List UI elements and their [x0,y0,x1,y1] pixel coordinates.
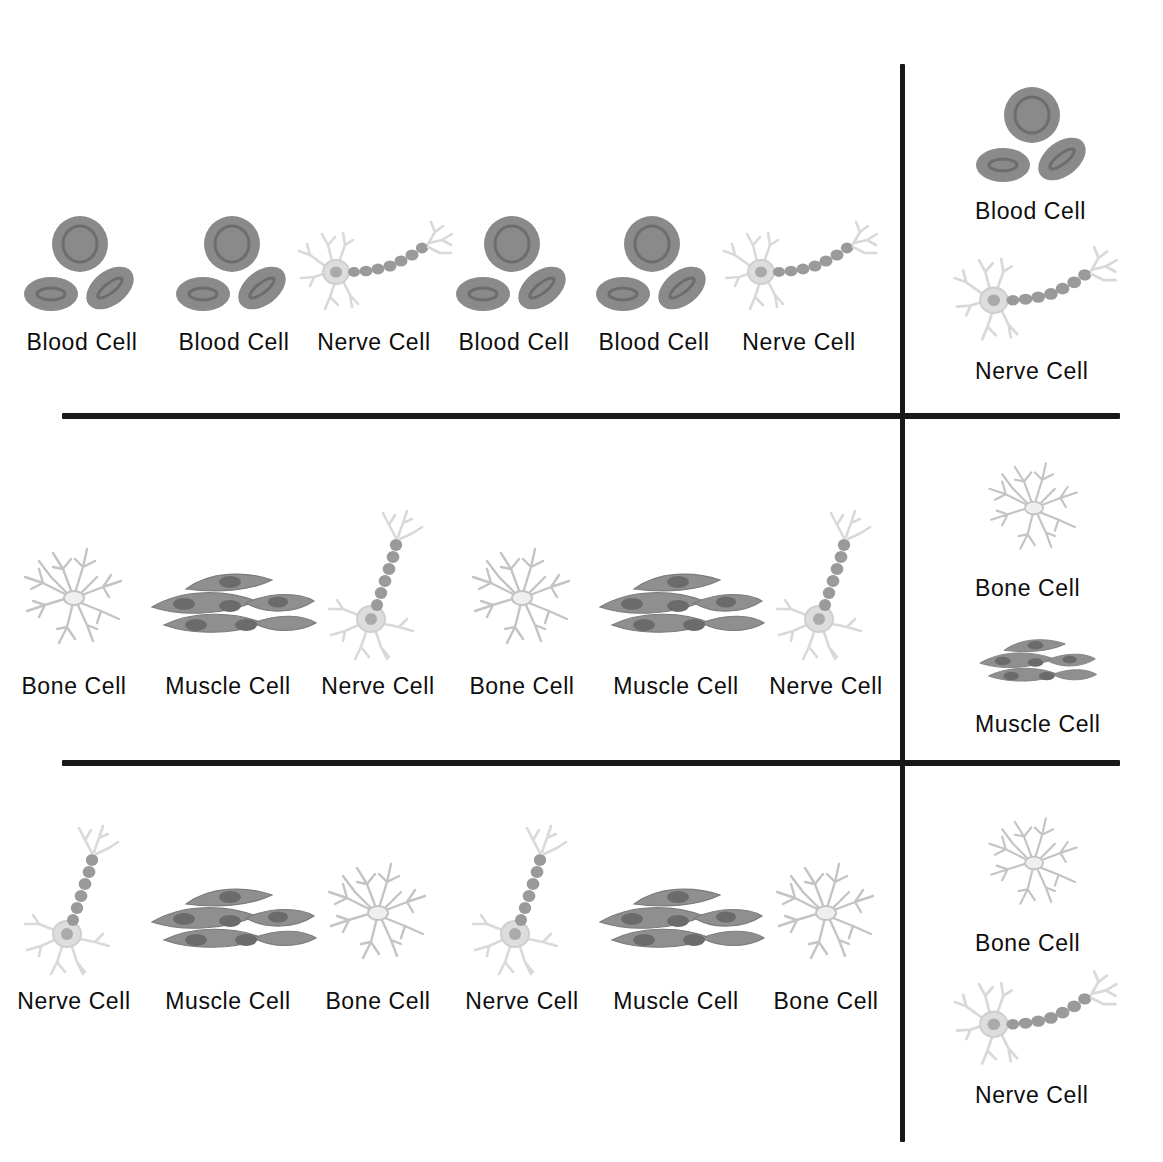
blood-cell-icon [18,211,146,319]
pattern-cell-slot[interactable]: Bone Cell [756,838,896,1015]
legend-item-label: Blood Cell [975,198,1086,225]
pattern-cell-label: Nerve Cell [17,988,130,1015]
pattern-cell-label: Bone Cell [773,988,878,1015]
bone-cell-icon [905,447,1163,567]
nerve-cell-icon [467,838,577,978]
pattern-cell-slot[interactable]: Muscle Cell [596,527,756,700]
pattern-cell-slot[interactable]: Bone Cell [0,527,148,700]
legend-item[interactable]: Blood Cell [905,86,1163,225]
legend-item-label: Nerve Cell [975,1082,1088,1109]
legend-item-label: Bone Cell [975,930,1080,957]
legend-item-label: Bone Cell [975,575,1080,602]
nerve-cell-icon [19,838,129,978]
nerve-cell-icon [288,211,460,319]
pattern-cell-label: Nerve Cell [769,673,882,700]
legend-item[interactable]: Bone Cell [905,802,1163,957]
legend-panel-row-2: Bone Cell [905,419,1163,760]
legend-item-label: Muscle Cell [975,711,1100,738]
pattern-cell-label: Nerve Cell [465,988,578,1015]
pattern-cell-slot[interactable]: Blood Cell [444,211,584,356]
pattern-cell-slot[interactable]: Blood Cell [584,211,724,356]
pattern-cell-slot[interactable]: Bone Cell [308,838,448,1015]
pattern-row-3: Nerve Cell [0,830,900,1015]
pattern-cell-slot[interactable]: Muscle Cell [148,527,308,700]
pattern-cell-label: Blood Cell [459,329,570,356]
pattern-cell-label: Muscle Cell [613,673,738,700]
muscle-cell-icon [138,527,318,663]
pattern-cell-label: Muscle Cell [613,988,738,1015]
pattern-cell-slot[interactable]: Nerve Cell [448,838,596,1015]
muscle-cell-icon [586,838,766,978]
pattern-cell-label: Muscle Cell [165,988,290,1015]
bone-cell-icon [457,527,587,663]
legend-item[interactable]: Muscle Cell [905,609,1163,738]
muscle-cell-icon [138,838,318,978]
blood-cell-icon [170,211,298,319]
pattern-cell-label: Bone Cell [21,673,126,700]
pattern-cell-label: Blood Cell [27,329,138,356]
pattern-row-1: Blood Cell Blood Cell [0,196,900,356]
pattern-row-2: Bone Cell [0,510,900,700]
pattern-cell-label: Blood Cell [599,329,710,356]
blood-cell-icon [905,86,1163,190]
blood-cell-icon [590,211,718,319]
legend-item[interactable]: Bone Cell [905,447,1163,602]
legend-item-label: Nerve Cell [975,358,1088,385]
nerve-cell-icon [323,527,433,663]
pattern-cell-slot[interactable]: Muscle Cell [596,838,756,1015]
pattern-cell-slot[interactable]: Nerve Cell [0,838,148,1015]
bone-cell-icon [313,838,443,978]
pattern-cell-label: Bone Cell [469,673,574,700]
pattern-cell-slot[interactable]: Bone Cell [448,527,596,700]
pattern-cell-slot[interactable]: Nerve Cell [308,527,448,700]
pattern-cell-label: Nerve Cell [317,329,430,356]
muscle-cell-icon [905,609,1163,703]
nerve-cell-icon [771,527,881,663]
pattern-cell-slot[interactable]: Nerve Cell [304,211,444,356]
nerve-cell-icon [713,211,885,319]
nerve-cell-icon [905,240,1163,350]
pattern-cell-slot[interactable]: Muscle Cell [148,838,308,1015]
pattern-cell-label: Nerve Cell [742,329,855,356]
muscle-cell-icon [586,527,766,663]
bone-cell-icon [761,838,891,978]
blood-cell-icon [450,211,578,319]
legend-item[interactable]: Nerve Cell [905,240,1163,385]
pattern-cell-slot[interactable]: Nerve Cell [724,211,874,356]
legend-panel-row-1: Blood Cell [905,72,1163,413]
pattern-cell-label: Muscle Cell [165,673,290,700]
pattern-cell-slot[interactable]: Nerve Cell [756,527,896,700]
pattern-cell-slot[interactable]: Blood Cell [164,211,304,356]
pattern-cell-label: Nerve Cell [321,673,434,700]
worksheet-sheet: Blood Cell Blood Cell [0,0,1163,1162]
pattern-cell-label: Blood Cell [179,329,290,356]
pattern-cell-slot[interactable]: Blood Cell [0,211,164,356]
bone-cell-icon [905,802,1163,922]
legend-item[interactable]: Nerve Cell [905,964,1163,1109]
legend-panel-row-3: Bone Cell [905,766,1163,1142]
pattern-cell-label: Bone Cell [325,988,430,1015]
bone-cell-icon [9,527,139,663]
nerve-cell-icon [905,964,1163,1074]
